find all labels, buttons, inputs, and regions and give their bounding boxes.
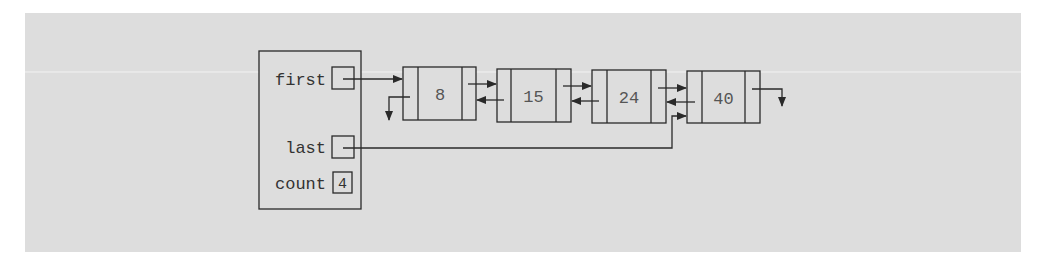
- linked-list-diagram: first last count 4 8 15 24 40: [0, 0, 1046, 265]
- list-header-struct: first last count 4: [259, 51, 361, 209]
- count-value: 4: [338, 176, 347, 193]
- first-pointer-box: [332, 67, 354, 89]
- first-label: first: [275, 71, 326, 90]
- node-info: 8: [435, 86, 445, 105]
- list-node: 40: [687, 71, 760, 123]
- list-node: 8: [403, 67, 476, 120]
- node-info: 24: [619, 89, 639, 108]
- diagram-panel: [25, 13, 1021, 252]
- last-label: last: [285, 139, 326, 158]
- list-node: 15: [497, 69, 571, 122]
- node-info: 15: [523, 88, 543, 107]
- node-info: 40: [713, 90, 733, 109]
- last-pointer-box: [332, 136, 354, 158]
- list-node: 24: [592, 70, 666, 123]
- count-label: count: [275, 175, 326, 194]
